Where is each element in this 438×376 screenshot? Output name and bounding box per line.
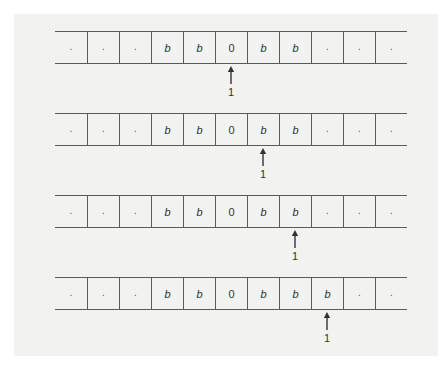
tape-cell: . bbox=[311, 32, 343, 63]
tape-cell: b bbox=[247, 196, 279, 227]
tape-cell: b bbox=[311, 278, 343, 309]
tape-cell: . bbox=[343, 32, 375, 63]
tape-cell: . bbox=[343, 114, 375, 145]
up-arrow-icon bbox=[290, 230, 300, 248]
tape-1: ...bb0bb... bbox=[55, 31, 407, 64]
tape-cell: . bbox=[375, 278, 407, 309]
tape-2: ...bb0bb... bbox=[55, 113, 407, 146]
tape-cell: b bbox=[151, 114, 183, 145]
tape-cell: . bbox=[375, 196, 407, 227]
tape-cell: b bbox=[247, 114, 279, 145]
tape-cell: . bbox=[87, 32, 119, 63]
tape-cell: . bbox=[119, 278, 151, 309]
up-arrow-icon bbox=[322, 312, 332, 330]
head-state-label: 1 bbox=[317, 332, 337, 344]
head-state-label: 1 bbox=[253, 168, 273, 180]
tape-cell: . bbox=[55, 278, 87, 309]
tape-cell: . bbox=[375, 32, 407, 63]
tape-cell: b bbox=[279, 32, 311, 63]
tape-cell: 0 bbox=[215, 196, 247, 227]
tape-cell: . bbox=[87, 196, 119, 227]
tape-cell: . bbox=[87, 278, 119, 309]
tape-cell: b bbox=[151, 278, 183, 309]
tape-cell: . bbox=[311, 196, 343, 227]
tape-cell: . bbox=[119, 196, 151, 227]
up-arrow-icon bbox=[226, 66, 236, 84]
tape-cell: b bbox=[183, 114, 215, 145]
tape-cell: b bbox=[183, 32, 215, 63]
tape-cell: b bbox=[151, 32, 183, 63]
up-arrow-icon bbox=[258, 148, 268, 166]
tape-cell: b bbox=[151, 196, 183, 227]
tape-head-3: 1 bbox=[285, 230, 305, 262]
tape-cell: 0 bbox=[215, 114, 247, 145]
tape-cell: b bbox=[279, 278, 311, 309]
tape-cell: . bbox=[87, 114, 119, 145]
tape-cell: 0 bbox=[215, 32, 247, 63]
tape-cell: b bbox=[247, 32, 279, 63]
tape-cell: . bbox=[375, 114, 407, 145]
tape-head-4: 1 bbox=[317, 312, 337, 344]
tape-cell: b bbox=[247, 278, 279, 309]
tape-cell: . bbox=[55, 196, 87, 227]
head-state-label: 1 bbox=[221, 86, 241, 98]
tape-cell: . bbox=[343, 278, 375, 309]
tape-cell: . bbox=[119, 32, 151, 63]
tape-cell: b bbox=[183, 196, 215, 227]
tape-cell: . bbox=[55, 114, 87, 145]
tape-head-2: 1 bbox=[253, 148, 273, 180]
tape-cell: . bbox=[343, 196, 375, 227]
tape-cell: . bbox=[311, 114, 343, 145]
tape-head-1: 1 bbox=[221, 66, 241, 98]
tape-3: ...bb0bb... bbox=[55, 195, 407, 228]
tape-cell: . bbox=[119, 114, 151, 145]
head-state-label: 1 bbox=[285, 250, 305, 262]
tape-cell: b bbox=[279, 114, 311, 145]
tape-4: ...bb0bbb.. bbox=[55, 277, 407, 310]
tape-cell: b bbox=[279, 196, 311, 227]
tape-cell: b bbox=[183, 278, 215, 309]
tape-cell: . bbox=[55, 32, 87, 63]
tape-cell: 0 bbox=[215, 278, 247, 309]
